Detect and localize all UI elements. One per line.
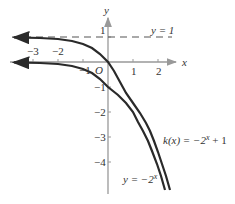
y-axis-label: y: [103, 4, 109, 16]
x-tick-label: −1: [79, 64, 91, 76]
x-tick-label: −3: [27, 45, 39, 57]
x-tick-label: 2: [156, 65, 162, 77]
y-tick-label: −2: [94, 106, 106, 118]
y-tick-label: −4: [94, 156, 106, 168]
y-tick-label: 1: [100, 24, 106, 36]
x-tick-label: 1: [131, 65, 137, 77]
curve-k: [14, 37, 170, 190]
curve-base: [14, 62, 165, 190]
y-tick-label: −3: [94, 131, 106, 143]
curve-k-label: k(x) = −2x + 1: [163, 133, 227, 147]
origin-label: O: [95, 64, 103, 76]
x-tick-label: −2: [52, 45, 64, 57]
graph: x y O −3 −2 −1 1 2 1 −1 −2 −3 −4 y = 1 k…: [0, 0, 235, 204]
y-tick-label: −1: [94, 81, 106, 93]
x-axis-label: x: [181, 56, 187, 68]
curve-base-label: y = −2x: [122, 172, 158, 185]
asymptote-label: y = 1: [150, 24, 174, 36]
